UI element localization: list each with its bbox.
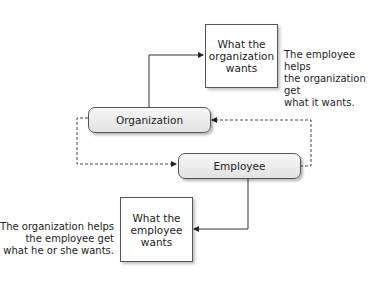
employee-node: Employee bbox=[178, 153, 301, 179]
emp-wants-line-3: wants bbox=[131, 236, 183, 248]
org-wants-line-2: organization bbox=[209, 50, 274, 62]
emp-wants-line-1: What the bbox=[131, 212, 183, 224]
emp-wants-line-2: employee bbox=[131, 224, 183, 236]
organization-node: Organization bbox=[88, 107, 211, 133]
organization-label: Organization bbox=[116, 114, 183, 126]
org-wants-line-1: What the bbox=[209, 38, 274, 50]
diagram-canvas: What the organization wants The employee… bbox=[0, 0, 382, 281]
org-wants-line-3: wants bbox=[209, 62, 274, 74]
bottom-note-line-1: The organization helps bbox=[0, 221, 114, 233]
bottom-note-line-2: the employee get bbox=[0, 233, 114, 245]
top-note: The employee helps the organization get … bbox=[284, 49, 382, 109]
bottom-note: The organization helps the employee get … bbox=[0, 221, 114, 257]
emp-wants-box: What the employee wants bbox=[120, 197, 193, 262]
top-note-line-2: the organization get bbox=[284, 73, 382, 97]
org-wants-box: What the organization wants bbox=[205, 24, 278, 88]
top-note-line-3: what it wants. bbox=[284, 97, 382, 109]
employee-label: Employee bbox=[213, 160, 265, 172]
bottom-note-line-3: what he or she wants. bbox=[0, 245, 114, 257]
top-note-line-1: The employee helps bbox=[284, 49, 382, 73]
